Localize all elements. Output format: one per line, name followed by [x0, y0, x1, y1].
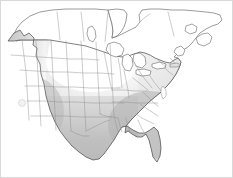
california-point-marker[interactable]: california-point	[19, 100, 26, 107]
map-figure: North America choropleth map Contiguous …	[0, 0, 233, 178]
map-canvas: california-point	[0, 0, 233, 178]
